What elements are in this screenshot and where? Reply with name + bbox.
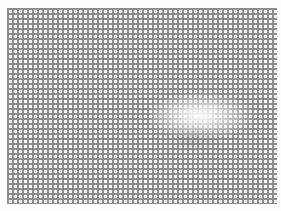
photo-scene bbox=[0, 0, 281, 211]
grid-mesh bbox=[7, 8, 277, 204]
